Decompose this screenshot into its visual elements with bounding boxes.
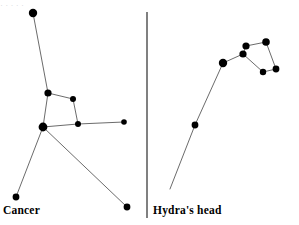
star-chart-canvas bbox=[0, 0, 299, 225]
star-point bbox=[44, 89, 51, 96]
star-point bbox=[13, 194, 20, 201]
constellation-line bbox=[266, 42, 276, 69]
star-point bbox=[39, 123, 48, 132]
star-point bbox=[239, 50, 246, 57]
constellation-lines bbox=[16, 13, 276, 207]
constellation-line bbox=[243, 54, 263, 72]
constellation-line bbox=[16, 127, 43, 197]
panel-label-cancer: Cancer bbox=[3, 204, 40, 216]
star-point bbox=[29, 9, 37, 17]
star-point bbox=[262, 38, 270, 46]
constellation-line bbox=[78, 122, 124, 124]
constellation-line-tail bbox=[170, 125, 195, 189]
constellation-stars bbox=[13, 9, 280, 211]
star-point bbox=[192, 122, 199, 129]
star-point bbox=[121, 119, 127, 125]
panel-label-hydra: Hydra's head bbox=[153, 204, 222, 216]
constellation-line bbox=[43, 124, 78, 127]
star-point bbox=[260, 69, 266, 75]
constellation-line bbox=[33, 13, 48, 93]
constellation-line bbox=[43, 127, 127, 207]
constellation-figure: · · · · · Cancer Hydra's head bbox=[0, 0, 299, 225]
star-point bbox=[242, 42, 249, 49]
constellation-line bbox=[195, 63, 223, 125]
star-point bbox=[124, 204, 131, 211]
star-point bbox=[75, 121, 81, 127]
star-point bbox=[70, 96, 76, 102]
constellation-line bbox=[73, 99, 78, 124]
star-point bbox=[219, 59, 227, 67]
constellation-line bbox=[48, 93, 73, 99]
constellation-line bbox=[43, 93, 48, 127]
star-point bbox=[273, 66, 280, 73]
